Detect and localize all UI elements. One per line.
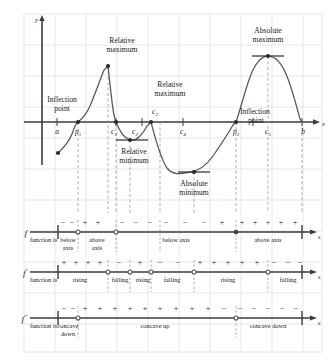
f-prime-sign-chart-caption: function is [30, 276, 58, 283]
annotation-relative-maximum-c3-line2: maximum [155, 89, 186, 98]
f-dprime-sign-10: + [206, 304, 211, 313]
point-c3 [149, 120, 153, 124]
f-dprime-sign-13: − [252, 304, 257, 313]
f-prime-sign-15: − [298, 258, 303, 267]
f-sign-10: + [220, 218, 225, 227]
f-prime-sign-chart-axis-label: x [317, 274, 321, 280]
f-prime-sign-6: − [158, 258, 163, 267]
f-sign-11: + [240, 218, 245, 227]
f-sign-0: − [61, 218, 66, 227]
annotation-relative-minimum-c2-line1: Relative [121, 147, 147, 156]
f-prime-sign-10: + [226, 258, 231, 267]
annotation-relative-maximum-c1-line2: maximum [107, 45, 138, 54]
f-sign-1: − [70, 218, 75, 227]
f-interval-1-line1: above [89, 236, 104, 243]
f-prime-sign-8: + [198, 258, 203, 267]
f-dprime-interval-2: concave down [250, 322, 288, 329]
f-sign-8: − [183, 218, 188, 227]
f-prime-interval-0: rising [73, 276, 88, 283]
f-prime-sign-4: − [117, 258, 122, 267]
f-dprime-sign-9: + [190, 304, 195, 313]
x-tick-label-a: a [55, 127, 59, 136]
f-dprime-sign-14: − [266, 304, 271, 313]
f-prime-interval-5: falling [280, 276, 297, 283]
point-c1-peak [106, 64, 110, 68]
f-dprime-interval-1: concave up [141, 322, 170, 329]
f-dprime-sign-16: − [294, 304, 299, 313]
f-prime-sign-1: + [74, 258, 79, 267]
f-prime-sign-7: − [176, 258, 181, 267]
f-prime-sign-0: + [62, 258, 67, 267]
f-double-prime-sign-chart-caption: function is [30, 322, 58, 329]
calculus-graph-figure: y x [0, 0, 333, 364]
f-dprime-interval-0-line1: concave [58, 322, 79, 329]
point-a-start [56, 151, 60, 155]
x-axis-label: x [321, 120, 325, 127]
f-dprime-sign-7: + [158, 304, 163, 313]
point-p1 [76, 120, 80, 124]
f-sign-15: + [293, 218, 298, 227]
f-interval-3-line1: above axis [254, 236, 282, 243]
f-dprime-sign-8: + [174, 304, 179, 313]
annotation-absolute-maximum-c5-line2: maximum [253, 35, 284, 44]
f-dprime-sign-6: + [143, 304, 148, 313]
f-sign-4: − [120, 218, 125, 227]
f-prime-sign-13: − [272, 258, 277, 267]
f-prime-sign-2: + [86, 258, 91, 267]
f-sign-2: + [83, 218, 88, 227]
f-dprime-sign-5: + [128, 304, 133, 313]
f-dprime-sign-12: − [238, 304, 243, 313]
f-sign-chart-caption: function is [30, 236, 58, 243]
f-prime-sign-9: + [212, 258, 217, 267]
f-interval-0-line2: axis [63, 244, 74, 251]
f-prime-interval-1: falling [112, 276, 129, 283]
f-dprime-sign-2: + [83, 304, 88, 313]
annotation-inflection-point-left-line1: Inflection [47, 95, 77, 104]
f-sign-3: + [96, 218, 101, 227]
f-dprime-sign-4: + [113, 304, 118, 313]
f-interval-0-line1: below [60, 236, 76, 243]
f-interval-1-line2: axis [92, 244, 103, 251]
f-dprime-sign-15: − [280, 304, 285, 313]
f-prime-interval-2: rising [136, 276, 151, 283]
point-p2 [234, 120, 238, 124]
f-sign-12: + [253, 218, 258, 227]
annotation-inflection-point-right-line2: point [248, 116, 265, 125]
annotation-absolute-minimum-c4-line1: Absolute [180, 179, 208, 188]
annotation-inflection-point-right-line1: Inflection [240, 107, 270, 116]
f-dprime-sign-11: − [222, 304, 227, 313]
f-prime-sign-11: + [240, 258, 245, 267]
f-sign-14: + [279, 218, 284, 227]
annotation-absolute-maximum-c5-line1: Absolute [254, 26, 282, 35]
f-sign-5: − [134, 218, 139, 227]
figure-svg: y x [0, 0, 333, 364]
annotation-relative-maximum-c3-line1: Relative [157, 80, 183, 89]
f-sign-chart-axis-label: x [317, 234, 321, 240]
f-sign-13: + [266, 218, 271, 227]
x-tick-label-b: b [301, 127, 305, 136]
f-prime-sign-5: + [138, 258, 143, 267]
annotation-absolute-minimum-c4-line2: minimum [179, 188, 209, 197]
f-interval-2-line1: below axis [162, 236, 190, 243]
f-prime-interval-3: falling [164, 276, 181, 283]
f-prime-sign-3: + [98, 258, 103, 267]
annotation-relative-maximum-c1-line1: Relative [109, 36, 135, 45]
f-dprime-sign-3: + [98, 304, 103, 313]
f-dprime-interval-0-line2: down [61, 330, 76, 337]
f-double-prime-sign-chart-axis-label: x [317, 320, 321, 326]
f-sign-9: − [202, 218, 207, 227]
f-prime-sign-14: − [286, 258, 291, 267]
f-dprime-sign-0: − [62, 304, 67, 313]
f-dprime-sign-1: − [71, 304, 76, 313]
annotation-relative-minimum-c2-line2: minimum [119, 156, 149, 165]
f-sign-7: − [164, 218, 169, 227]
f-prime-sign-12: + [255, 258, 260, 267]
f-sign-6: − [148, 218, 153, 227]
f-prime-interval-4: rising [221, 276, 236, 283]
annotation-inflection-point-left-line2: point [54, 104, 71, 113]
point-c1 [114, 120, 118, 124]
